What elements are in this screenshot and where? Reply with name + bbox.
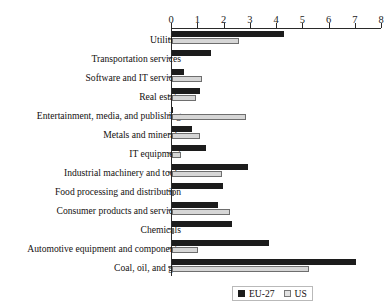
- white-square-swatch-icon: [284, 290, 291, 297]
- bar-eu-27: [172, 126, 192, 132]
- category-label: Automotive equipment and components: [27, 242, 181, 253]
- chart-row: Coal, oil, and gas: [0, 257, 384, 276]
- bar-eu-27: [172, 164, 248, 170]
- bar-us: [172, 95, 196, 101]
- bar-eu-27: [172, 221, 232, 227]
- category-label: Entertainment, media, and publishing: [37, 109, 181, 120]
- category-tick-mark: [168, 228, 171, 229]
- category-tick-mark: [168, 247, 171, 248]
- bar-us: [172, 171, 222, 177]
- bar-us: [172, 247, 198, 253]
- x-axis-tick-mark: [355, 23, 356, 28]
- category-tick-mark: [168, 152, 171, 153]
- bar-eu-27: [172, 183, 223, 189]
- category-label: Food processing and distribution: [55, 185, 181, 196]
- plot-area: UtilitiesTransportation servicesSoftware…: [0, 29, 384, 276]
- category-tick-mark: [168, 171, 171, 172]
- bar-eu-27: [172, 50, 211, 56]
- bar-eu-27: [172, 107, 173, 113]
- x-axis-tick-mark: [171, 23, 172, 28]
- category-tick-mark: [168, 95, 171, 96]
- chart-legend: EU-27 US: [232, 286, 313, 301]
- x-axis-tick-mark: [224, 23, 225, 28]
- chart-row: Automotive equipment and components: [0, 238, 384, 257]
- bar-eu-27: [172, 69, 184, 75]
- black-square-swatch-icon: [238, 290, 245, 297]
- legend-label: US: [295, 288, 307, 299]
- bar-us: [172, 266, 309, 272]
- category-tick-mark: [168, 209, 171, 210]
- legend-label: EU-27: [249, 288, 275, 299]
- x-axis-tick-mark: [329, 23, 330, 28]
- category-tick-mark: [168, 38, 171, 39]
- chart-row: Transportation services: [0, 48, 384, 67]
- chart-row: Industrial machinery and tools: [0, 162, 384, 181]
- bar-us: [172, 133, 200, 139]
- category-tick-mark: [168, 114, 171, 115]
- chart-row: Chemicals: [0, 219, 384, 238]
- bar-us: [172, 152, 181, 158]
- bar-eu-27: [172, 88, 200, 94]
- category-tick-mark: [168, 190, 171, 191]
- chart-row: Entertainment, media, and publishing: [0, 105, 384, 124]
- grouped-bar-chart: 012345678 UtilitiesTransportation servic…: [0, 0, 384, 307]
- category-tick-mark: [168, 57, 171, 58]
- category-label: Consumer products and services: [57, 204, 181, 215]
- x-axis-tick-mark: [197, 23, 198, 28]
- bar-us: [172, 228, 174, 234]
- category-tick-mark: [168, 266, 171, 267]
- chart-row: Metals and minerals: [0, 124, 384, 143]
- bar-us: [172, 114, 246, 120]
- legend-item-us: US: [284, 288, 307, 299]
- bar-us: [172, 190, 174, 196]
- chart-row: Real estate: [0, 86, 384, 105]
- bar-eu-27: [172, 259, 356, 265]
- x-axis-tick-mark: [302, 23, 303, 28]
- bar-us: [172, 76, 202, 82]
- x-axis-tick-mark: [250, 23, 251, 28]
- chart-row: Software and IT services: [0, 67, 384, 86]
- chart-row: IT equipment: [0, 143, 384, 162]
- category-tick-mark: [168, 76, 171, 77]
- chart-row: Food processing and distribution: [0, 181, 384, 200]
- category-tick-mark: [168, 133, 171, 134]
- x-axis-tick-mark: [381, 23, 382, 28]
- chart-row: Utilities: [0, 29, 384, 48]
- category-label: Industrial machinery and tools: [64, 166, 181, 177]
- bar-us: [172, 38, 239, 44]
- chart-row: Consumer products and services: [0, 200, 384, 219]
- bar-us: [172, 209, 230, 215]
- bar-eu-27: [172, 31, 284, 37]
- bar-eu-27: [172, 202, 218, 208]
- legend-item-eu-27: EU-27: [238, 288, 275, 299]
- bar-eu-27: [172, 145, 206, 151]
- bar-eu-27: [172, 240, 269, 246]
- category-label: Software and IT services: [86, 71, 181, 82]
- x-axis-tick-mark: [276, 23, 277, 28]
